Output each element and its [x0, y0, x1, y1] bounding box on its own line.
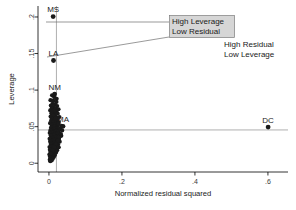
x-tick-label: .2	[119, 178, 125, 185]
boxed-annotation-line-1: High Leverage	[172, 17, 225, 26]
x-tick-label: .4	[192, 178, 198, 185]
annotation-leader-lines	[46, 22, 169, 57]
y-tick-label: .1	[28, 87, 35, 93]
data-point	[48, 159, 52, 163]
plain-annotation-line-2: Low Leverage	[224, 50, 275, 59]
boxed-annotation-line-2: Low Residual	[172, 27, 220, 36]
x-tick-group: 0.2.4.6	[47, 172, 271, 185]
data-point-ms	[51, 14, 56, 19]
point-label-ms: MS	[47, 5, 59, 14]
reference-lines-group	[38, 6, 288, 172]
data-point	[49, 151, 53, 155]
point-label-nm: NM	[48, 83, 61, 92]
y-axis-title: Leverage	[7, 73, 16, 105]
data-point-dc	[266, 125, 271, 130]
leverage-residual-plot-figure: MSLANMMADC 0.2.4.6 0.05.1.15.2 Normalize…	[0, 0, 296, 210]
y-tick-group: 0.05.1.15.2	[28, 14, 38, 165]
data-point	[60, 128, 64, 132]
plain-annotation-line-1: High Residual	[224, 40, 274, 49]
point-label-ma: MA	[57, 115, 70, 124]
point-label-la: LA	[49, 49, 59, 58]
boxed-annotation-group: High Leverage Low Residual	[170, 16, 235, 38]
plain-annotation-group: High Residual Low Leverage	[224, 40, 275, 59]
y-tick-label: .15	[28, 49, 35, 59]
data-point-ma	[61, 124, 66, 129]
x-tick-label: .6	[265, 178, 271, 185]
y-tick-label: .2	[28, 14, 35, 20]
data-point-la	[51, 58, 56, 63]
data-point-nm	[52, 92, 57, 97]
labeled-points-group: MSLANMMADC	[47, 5, 274, 129]
y-tick-label: .05	[28, 122, 35, 132]
axes-group	[38, 6, 288, 172]
x-axis-title: Normalized residual squared	[115, 189, 212, 198]
x-tick-label: 0	[47, 178, 51, 185]
y-tick-label: 0	[28, 161, 35, 165]
plot-canvas: MSLANMMADC 0.2.4.6 0.05.1.15.2 Normalize…	[0, 0, 296, 210]
point-label-dc: DC	[262, 116, 274, 125]
data-point	[55, 97, 59, 101]
leader-line-to-la	[47, 37, 169, 57]
